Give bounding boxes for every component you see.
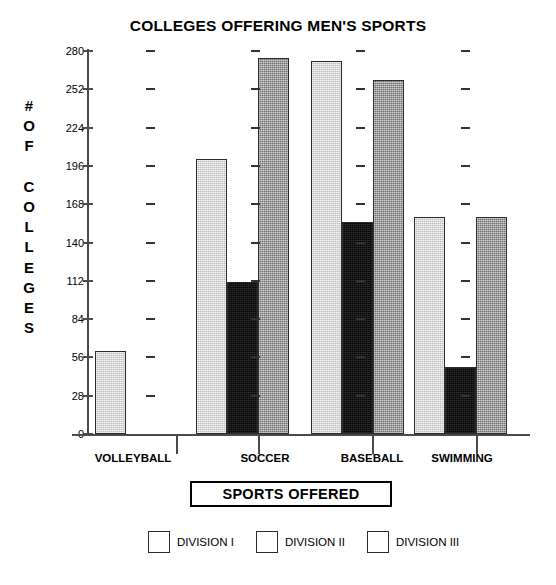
grid-dash bbox=[251, 88, 260, 90]
grid-dash bbox=[461, 280, 470, 282]
bar bbox=[342, 222, 373, 434]
grid-dash bbox=[146, 280, 155, 282]
bar bbox=[311, 61, 342, 434]
grid-dash bbox=[146, 88, 155, 90]
x-axis-category-label: SWIMMING bbox=[431, 452, 492, 464]
x-axis-title-label: SPORTS OFFERED bbox=[222, 486, 359, 502]
y-axis-tick-mark bbox=[83, 88, 93, 90]
grid-dash bbox=[251, 395, 260, 397]
legend-item[interactable]: DIVISION II bbox=[256, 531, 345, 553]
bar bbox=[373, 80, 404, 434]
x-axis-category-label: BASEBALL bbox=[341, 452, 404, 464]
y-axis-tick-mark bbox=[83, 127, 93, 129]
legend-label: DIVISION II bbox=[285, 536, 345, 548]
grid-dash bbox=[251, 127, 260, 129]
y-axis-tick-mark bbox=[83, 203, 93, 205]
y-axis-tick-mark bbox=[83, 356, 93, 358]
legend-label: DIVISION III bbox=[396, 536, 459, 548]
grid-dash bbox=[146, 318, 155, 320]
y-axis-tick-mark bbox=[83, 50, 93, 52]
grid-dash bbox=[461, 203, 470, 205]
y-axis-tick-mark bbox=[83, 165, 93, 167]
x-axis-category-label: SOCCER bbox=[240, 452, 289, 464]
grid-dash bbox=[146, 356, 155, 358]
grid-dash bbox=[251, 318, 260, 320]
grid-dash bbox=[251, 50, 260, 52]
y-axis-tick-label: 252 bbox=[44, 83, 84, 95]
x-axis-tick-mark bbox=[176, 436, 178, 454]
bar bbox=[258, 58, 289, 434]
legend-swatch bbox=[367, 531, 389, 553]
y-axis-tick-label: 224 bbox=[44, 122, 84, 134]
y-axis-tick-label: 168 bbox=[44, 198, 84, 210]
grid-dash bbox=[146, 242, 155, 244]
y-axis-tick-label: 140 bbox=[44, 237, 84, 249]
grid-dash bbox=[356, 88, 365, 90]
grid-dash bbox=[356, 318, 365, 320]
grid-dash bbox=[356, 127, 365, 129]
y-axis-tick-label: 84 bbox=[44, 313, 84, 325]
grid-dash bbox=[146, 127, 155, 129]
grid-dash bbox=[251, 242, 260, 244]
bar bbox=[95, 351, 126, 434]
grid-dash bbox=[356, 165, 365, 167]
y-axis-tick-mark bbox=[83, 242, 93, 244]
grid-dash bbox=[356, 395, 365, 397]
grid-dash bbox=[461, 242, 470, 244]
y-axis-tick-label: 56 bbox=[44, 351, 84, 363]
y-axis-tick-mark bbox=[83, 395, 93, 397]
grid-dash bbox=[251, 356, 260, 358]
grid-dash bbox=[461, 50, 470, 52]
x-axis-line bbox=[72, 434, 530, 436]
grid-dash bbox=[251, 203, 260, 205]
grid-dash bbox=[461, 127, 470, 129]
x-axis-category-label: VOLLEYBALL bbox=[95, 452, 172, 464]
grid-dash bbox=[356, 356, 365, 358]
y-axis-tick-mark bbox=[83, 280, 93, 282]
grid-dash bbox=[461, 165, 470, 167]
y-axis-tick-mark bbox=[83, 433, 93, 435]
grid-dash bbox=[146, 50, 155, 52]
grid-dash bbox=[356, 280, 365, 282]
legend-label: DIVISION I bbox=[177, 536, 234, 548]
bar bbox=[414, 217, 445, 434]
y-axis-tick-labels: 2802522241961681401128456280 bbox=[24, 0, 84, 585]
bar bbox=[476, 217, 507, 434]
legend-item[interactable]: DIVISION I bbox=[148, 531, 234, 553]
grid-dash bbox=[461, 395, 470, 397]
grid-dash bbox=[251, 280, 260, 282]
grid-dash bbox=[356, 50, 365, 52]
y-axis-tick-mark bbox=[83, 318, 93, 320]
grid-dash bbox=[146, 203, 155, 205]
grid-dash bbox=[356, 203, 365, 205]
grid-dash bbox=[146, 165, 155, 167]
grid-dash bbox=[146, 395, 155, 397]
grid-dash bbox=[461, 356, 470, 358]
grid-dash bbox=[461, 318, 470, 320]
y-axis-tick-label: 280 bbox=[44, 45, 84, 57]
bar-chart: COLLEGES OFFERING MEN'S SPORTS #OFCOLLEG… bbox=[0, 0, 556, 585]
grid-dash bbox=[356, 242, 365, 244]
legend-item[interactable]: DIVISION III bbox=[367, 531, 459, 553]
x-axis-title: SPORTS OFFERED bbox=[190, 481, 392, 507]
chart-legend: DIVISION IDIVISION IIDIVISION III bbox=[148, 530, 481, 554]
bar bbox=[196, 159, 227, 434]
grid-dash bbox=[251, 165, 260, 167]
y-axis-tick-label: 112 bbox=[44, 275, 84, 287]
y-axis-tick-label: 196 bbox=[44, 160, 84, 172]
y-axis-tick-label: 28 bbox=[44, 390, 84, 402]
grid-dash bbox=[461, 88, 470, 90]
legend-swatch bbox=[256, 531, 278, 553]
bar bbox=[445, 367, 476, 434]
legend-swatch bbox=[148, 531, 170, 553]
